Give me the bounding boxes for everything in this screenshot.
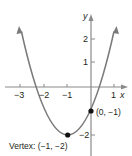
x-axis-label: x [119, 90, 125, 100]
left-curve-arrow-icon [17, 26, 23, 34]
y-intercept-label: (0, −1) [96, 107, 121, 117]
parabola-curve [21, 31, 114, 135]
x-axis [5, 84, 128, 90]
x-axis-arrow-icon [121, 85, 128, 90]
x-tick-label: 1 [111, 90, 116, 100]
y-intercept-point [88, 108, 93, 113]
y-tick-label: 1 [83, 57, 88, 67]
vertex-label: Vertex: (−1, −2) [9, 141, 68, 151]
x-tick-label: −3 [14, 90, 24, 100]
y-axis-label: y [82, 11, 88, 21]
y-tick-label: −2 [79, 130, 89, 140]
vertex-point [65, 132, 70, 137]
parabola-graph: −3 −2 −1 1 x 2 1 −2 y Vertex: (−1, −2) (… [0, 0, 132, 156]
y-axis [89, 14, 96, 156]
x-tick-label: −2 [39, 90, 49, 100]
right-curve-arrow-icon [113, 26, 119, 34]
y-tick-label: 2 [83, 34, 88, 44]
y-axis-arrow-icon [89, 14, 94, 21]
x-tick-label: −1 [62, 90, 72, 100]
